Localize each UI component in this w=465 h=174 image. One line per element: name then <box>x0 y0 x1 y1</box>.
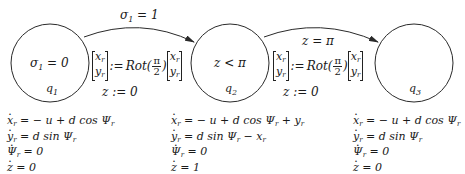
flow-line: Ψr = 0 <box>353 146 460 162</box>
vector-xr-yr: xr yr <box>273 51 289 81</box>
fraction-pi-over-2: π 2 <box>152 56 161 77</box>
flow-line: yr = d sin Ψr − xr <box>171 131 304 147</box>
transition-q1-q2-arrow <box>84 28 194 42</box>
transition-q2-q3-reset-z: z := 0 <box>283 86 319 98</box>
state-q2-flow: xr = − u + d cos Ψr + yr yr = d sin Ψr −… <box>171 115 304 173</box>
flow-line: yr = d sin Ψr <box>7 131 114 147</box>
fraction-pi-over-2: π 2 <box>333 56 342 77</box>
transition-q1-q2-reset: xr yr := Rot( π 2 ) xr yr <box>92 51 182 81</box>
transition-q2-q3-reset: xr yr := Rot( π 2 ) xr yr <box>273 51 363 81</box>
state-q3-name: q3 <box>409 83 421 99</box>
transition-q1-q2-guard: σ1 = 1 <box>120 9 159 26</box>
transition-q2-q3-guard: z = π <box>302 35 334 47</box>
state-q1-invariant: σ1 = 0 <box>30 57 69 74</box>
vector-xr-yr: xr yr <box>167 51 183 81</box>
flow-line: xr = − u + d cos Ψr + yr <box>171 115 304 131</box>
flow-line: Ψr = 0 <box>7 146 114 162</box>
state-q1-name: q1 <box>46 83 58 99</box>
state-q2-invariant: z < π <box>214 57 246 69</box>
flow-line: Ψr = 0 <box>171 146 304 162</box>
state-q3-flow: xr = − u + d cos Ψr yr = d sin Ψr Ψr = 0… <box>353 115 460 173</box>
vector-xr-yr: xr yr <box>348 51 364 81</box>
flow-line: xr = − u + d cos Ψr <box>7 115 114 131</box>
flow-line: z = 0 <box>353 162 460 174</box>
flow-line: xr = − u + d cos Ψr <box>353 115 460 131</box>
state-q1-flow: xr = − u + d cos Ψr yr = d sin Ψr Ψr = 0… <box>7 115 114 173</box>
vector-xr-yr: xr yr <box>92 51 108 81</box>
transition-q1-q2-reset-z: z := 0 <box>102 86 138 98</box>
flow-line: z = 1 <box>171 162 304 174</box>
flow-line: yr = d sin Ψr <box>353 131 460 147</box>
state-q2-name: q2 <box>225 83 237 99</box>
flow-line: z = 0 <box>7 162 114 174</box>
